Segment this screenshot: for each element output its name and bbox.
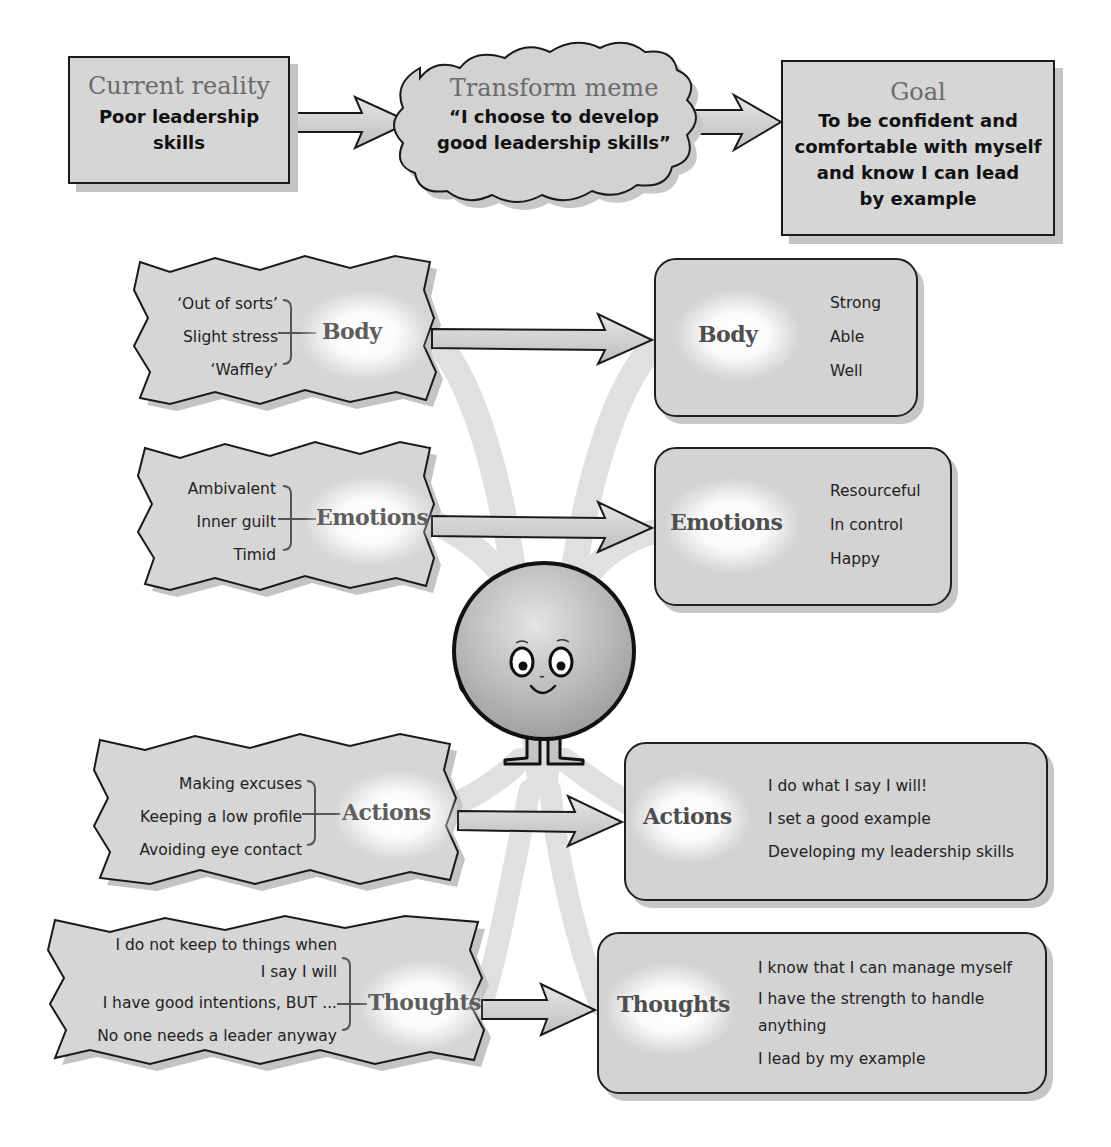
transform-meme-text: Transform meme “I choose to develop good…: [418, 74, 690, 156]
list-item: I lead by my example: [758, 1046, 1012, 1073]
list-item: Keeping a low profile: [100, 801, 302, 834]
list-item: Ambivalent: [150, 473, 276, 506]
arrow-reality-to-meme: [290, 97, 410, 148]
right-actions-label: Actions: [643, 803, 732, 829]
list-item: Strong: [830, 286, 881, 320]
transform-meme-title: Transform meme: [418, 74, 690, 102]
left-body-items: ‘Out of sorts’ Slight stress ‘Waffley’: [150, 288, 278, 387]
list-item: ‘Out of sorts’: [150, 288, 278, 321]
list-item: No one needs a leader anyway: [55, 1023, 337, 1050]
goal-line-2: comfortable with myself: [783, 134, 1053, 160]
right-body-items: Strong Able Well: [830, 286, 881, 388]
left-actions-label: Actions: [342, 799, 431, 825]
left-thoughts-items: I do not keep to things when I say I wil…: [55, 932, 337, 1050]
list-item: Happy: [830, 542, 921, 576]
list-item: I know that I can manage myself: [758, 955, 1012, 982]
list-item: I have the strength to handle: [758, 986, 1012, 1013]
transform-meme-line-1: “I choose to develop: [418, 104, 690, 130]
list-item: anything: [758, 1013, 1012, 1040]
transform-meme-line-2: good leadership skills”: [418, 130, 690, 156]
list-item: I set a good example: [768, 803, 1014, 836]
list-item: I do what I say I will!: [768, 770, 1014, 803]
current-reality-line-2: skills: [70, 130, 288, 156]
current-reality-title: Current reality: [70, 72, 288, 100]
right-emotions-items: Resourceful In control Happy: [830, 474, 921, 576]
list-item: ‘Waffley’: [150, 354, 278, 387]
right-thoughts-items: I know that I can manage myself I have t…: [758, 955, 1012, 1073]
left-emotions-label: Emotions: [316, 504, 428, 530]
list-item: In control: [830, 508, 921, 542]
list-item: Inner guilt: [150, 506, 276, 539]
list-item: Making excuses: [100, 768, 302, 801]
list-item: I do not keep to things when: [55, 932, 337, 959]
list-item: Timid: [150, 539, 276, 572]
left-actions-items: Making excuses Keeping a low profile Avo…: [100, 768, 302, 867]
list-item: Resourceful: [830, 474, 921, 508]
left-emotions-items: Ambivalent Inner guilt Timid: [150, 473, 276, 572]
goal-line-3: and know I can lead: [783, 160, 1053, 186]
smiling-character-figure: [454, 563, 634, 764]
list-item: Able: [830, 320, 881, 354]
current-reality-box: Current reality Poor leadership skills: [68, 56, 290, 184]
goal-box: Goal To be confident and comfortable wit…: [781, 60, 1055, 236]
list-item: Developing my leadership skills: [768, 836, 1014, 869]
right-emotions-label: Emotions: [670, 509, 782, 535]
arrow-body: [432, 314, 652, 364]
left-body-label: Body: [322, 318, 381, 344]
right-thoughts-label: Thoughts: [617, 991, 730, 1017]
left-thoughts-label: Thoughts: [368, 989, 481, 1015]
current-reality-line-1: Poor leadership: [70, 104, 288, 130]
right-body-label: Body: [698, 321, 757, 347]
list-item: I say I will: [55, 959, 337, 986]
goal-line-4: by example: [783, 186, 1053, 212]
list-item: I have good intentions, BUT ...: [55, 990, 337, 1017]
goal-line-1: To be confident and: [783, 108, 1053, 134]
list-item: Slight stress: [150, 321, 278, 354]
arrow-thoughts: [482, 984, 595, 1035]
list-item: Well: [830, 354, 881, 388]
right-actions-items: I do what I say I will! I set a good exa…: [768, 770, 1014, 869]
goal-title: Goal: [783, 78, 1053, 106]
list-item: Avoiding eye contact: [100, 834, 302, 867]
